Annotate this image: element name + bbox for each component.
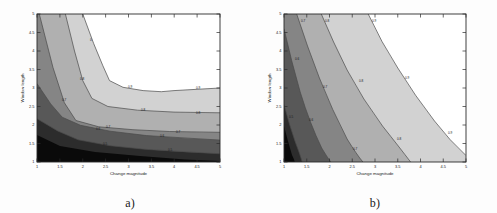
contour-label-b-0.6-2: 0.6	[309, 118, 314, 122]
x-tick-label-a-1: 1.5	[57, 164, 62, 169]
x-tick-label-a-3: 2.5	[103, 164, 108, 169]
contour-label-a-0.7-1: 0.7	[176, 130, 181, 134]
y-axis-label-b: Window length	[267, 73, 272, 102]
panel-a: 0.9 0.9 0.9 0.8 0.8 0.8 0.7 0.7 0.7 0.6 …	[0, 0, 248, 213]
x-tick-label-a-7: 4.5	[194, 164, 199, 169]
contour-label-b-0.5-1: 0.5	[289, 115, 294, 119]
y-axis-label-a: Window length	[20, 73, 25, 102]
contour-label-a-0.7-2: 0.7	[106, 125, 111, 129]
y-axis-tick-labels-b: 1 1.5 2 2.5 3 3.5 4 4.5 5	[276, 11, 282, 164]
x-tick-label-a-8: 5	[219, 164, 221, 169]
y-tick-label-a-3: 2.5	[29, 104, 34, 109]
y-tick-label-b-5: 3.5	[276, 67, 281, 72]
x-tick-label-a-5: 3.5	[149, 164, 154, 169]
contour-label-a-0.9-2: 0.9	[128, 85, 133, 89]
x-tick-label-a-0: 1	[36, 164, 38, 169]
contour-label-b-0.9-3: 0.9	[448, 131, 453, 135]
x-tick-label-b-6: 4	[419, 164, 422, 169]
x-tick-label-b-5: 3.5	[395, 164, 400, 169]
contour-label-b-0.7-3: 0.7	[353, 147, 358, 151]
y-tick-label-b-0: 1	[279, 159, 281, 164]
y-tick-label-b-7: 4.5	[276, 30, 281, 35]
x-axis-tick-labels-b: 1 1.5 2 2.5 3 3.5 4 4.5 5	[283, 164, 467, 169]
y-tick-label-a-7: 4.5	[29, 30, 34, 35]
x-tick-label-b-8: 5	[465, 164, 467, 169]
x-tick-label-a-2: 2	[82, 164, 84, 169]
x-axis-label-a: Change magnitude	[110, 171, 148, 176]
panel-caption-a: a)	[0, 196, 254, 211]
contour-label-a-0.5-1: 0.5	[168, 148, 173, 152]
contour-label-b-0.8-1: 0.8	[325, 19, 330, 23]
figure-container: 0.9 0.9 0.9 0.8 0.8 0.8 0.7 0.7 0.7 0.6 …	[0, 0, 497, 213]
contour-label-b-0.7-1: 0.7	[301, 19, 306, 23]
contour-label-a-0.9-1: 0.9	[196, 86, 201, 90]
x-tick-label-b-3: 2.5	[350, 164, 355, 169]
y-tick-label-b-6: 4	[279, 48, 282, 53]
contour-label-b-0.6-1: 0.6	[295, 57, 300, 61]
x-tick-label-a-6: 4	[173, 164, 176, 169]
contour-label-b-0.9-2: 0.9	[405, 76, 410, 80]
contour-label-a-0.7-3: 0.7	[62, 98, 67, 102]
x-tick-label-b-1: 1.5	[304, 164, 309, 169]
y-tick-label-b-2: 2	[279, 122, 281, 127]
y-tick-label-b-1: 1.5	[276, 141, 281, 146]
y-tick-label-a-1: 1.5	[29, 141, 34, 146]
y-tick-label-a-6: 4	[32, 48, 35, 53]
contour-label-b-0.8-2: 0.8	[359, 79, 364, 83]
contour-label-a-0.8-2: 0.8	[141, 108, 146, 112]
x-tick-label-b-0: 1	[283, 164, 285, 169]
y-tick-label-b-4: 3	[279, 85, 281, 90]
panel-caption-b: b)	[249, 196, 497, 211]
x-tick-label-b-7: 4.5	[441, 164, 446, 169]
y-tick-label-a-8: 5	[32, 11, 34, 16]
panel-b: 0.9 0.9 0.9 0.8 0.8 0.8 0.7 0.7 0.7 0.6 …	[249, 0, 497, 213]
y-tick-label-b-3: 2.5	[276, 104, 281, 109]
x-axis-label-b: Change magnitude	[356, 171, 394, 176]
y-tick-label-a-2: 2	[32, 122, 34, 127]
contour-label-a-0.8-1: 0.8	[196, 111, 201, 115]
contour-label-a-0.8-3: 0.8	[80, 77, 85, 81]
contour-plot-b: 0.9 0.9 0.9 0.8 0.8 0.8 0.7 0.7 0.7 0.6 …	[249, 0, 497, 213]
x-tick-label-b-4: 3	[374, 164, 376, 169]
y-tick-label-a-4: 3	[32, 85, 34, 90]
x-axis-tick-labels-a: 1 1.5 2 2.5 3 3.5 4 4.5 5	[36, 164, 221, 169]
contour-label-b-0.9-1: 0.9	[372, 19, 377, 23]
x-tick-label-a-4: 3	[127, 164, 129, 169]
contour-plot-a: 0.9 0.9 0.9 0.8 0.8 0.8 0.7 0.7 0.7 0.6 …	[0, 0, 248, 213]
contour-label-b-0.8-3: 0.8	[397, 137, 402, 141]
contour-label-a-0.6-2: 0.6	[96, 127, 101, 131]
contour-label-a-0.5-2: 0.5	[103, 142, 108, 146]
y-axis-tick-labels-a: 1 1.5 2 2.5 3 3.5 4 4.5 5	[29, 11, 35, 164]
y-tick-label-a-0: 1	[32, 159, 34, 164]
x-tick-label-b-2: 2	[328, 164, 330, 169]
y-tick-label-a-5: 3.5	[29, 67, 34, 72]
contour-label-b-0.7-2: 0.7	[323, 85, 328, 89]
y-tick-label-b-8: 5	[279, 11, 281, 16]
contour-label-a-0.6-1: 0.6	[160, 134, 165, 138]
